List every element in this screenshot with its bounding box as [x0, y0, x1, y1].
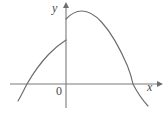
x-axis-arrowhead: [157, 81, 163, 87]
y-axis-arrowhead: [63, 2, 69, 8]
origin-label: 0: [56, 85, 62, 97]
coordinate-plot: [0, 0, 168, 113]
x-axis-label: x: [147, 81, 152, 93]
y-axis-label: y: [52, 2, 57, 14]
graph-figure: y x 0: [0, 0, 168, 113]
curve-right-branch: [66, 11, 148, 106]
